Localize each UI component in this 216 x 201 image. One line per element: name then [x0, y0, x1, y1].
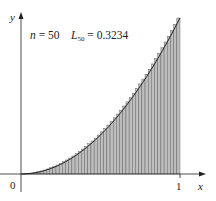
- riemann-rectangle: [151, 64, 154, 174]
- riemann-rectangle: [145, 74, 148, 174]
- riemann-rectangle: [174, 24, 177, 174]
- x-axis-label: x: [198, 181, 203, 192]
- annotation: n = 50 L50 = 0.3234: [30, 30, 128, 43]
- riemann-rectangle: [113, 118, 116, 174]
- riemann-rectangle: [135, 89, 138, 174]
- riemann-rectangle: [167, 36, 170, 174]
- riemann-rectangle: [78, 151, 81, 174]
- riemann-rectangle: [158, 53, 161, 174]
- riemann-rectangle: [72, 156, 75, 174]
- riemann-rectangle: [155, 59, 158, 174]
- riemann-rectangle: [126, 102, 129, 174]
- n-symbol: n: [30, 29, 36, 41]
- riemann-rectangle: [129, 98, 132, 174]
- riemann-rectangle: [110, 122, 113, 174]
- riemann-rectangle: [81, 149, 84, 174]
- riemann-rectangle: [177, 18, 180, 174]
- L-subscript: 50: [77, 35, 84, 43]
- riemann-rectangle: [164, 42, 167, 174]
- riemann-rectangle: [132, 93, 135, 174]
- L-value: = 0.3234: [87, 29, 128, 41]
- riemann-rectangle: [123, 106, 126, 174]
- riemann-rectangle: [104, 129, 107, 174]
- riemann-rectangle: [139, 84, 142, 174]
- riemann-rectangle: [170, 30, 173, 174]
- riemann-rectangle: [69, 158, 72, 174]
- y-axis-arrow-icon: [19, 12, 24, 19]
- riemann-rectangle: [148, 69, 151, 174]
- x-tick-label-one: 1: [176, 181, 182, 192]
- riemann-rectangle: [101, 132, 104, 174]
- riemann-rectangle: [88, 144, 91, 174]
- n-value: = 50: [39, 29, 60, 41]
- riemann-rectangle: [161, 48, 164, 174]
- riemann-rectangle: [116, 114, 119, 174]
- riemann-rectangle: [85, 146, 88, 174]
- origin-label: 0: [10, 180, 16, 191]
- x-axis-arrow-icon: [199, 172, 206, 177]
- y-axis-label: y: [10, 12, 15, 23]
- riemann-rectangle: [97, 135, 100, 174]
- riemann-rectangle: [120, 110, 123, 174]
- riemann-rectangle: [75, 154, 78, 174]
- riemann-rectangle: [107, 125, 110, 174]
- riemann-rectangle: [94, 138, 97, 174]
- riemann-rectangle: [142, 79, 145, 174]
- riemann-rectangle: [91, 141, 94, 174]
